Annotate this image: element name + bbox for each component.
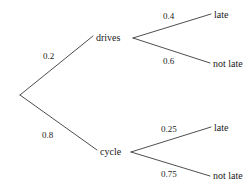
leaf-cycle-late: late (214, 123, 228, 133)
node-cycle: cycle (100, 147, 121, 157)
edge-root-to-drives (20, 36, 93, 95)
leaf-drives-late: late (214, 10, 228, 20)
probability-cycle-not-late: 0.75 (161, 170, 177, 179)
probability-cycle: 0.8 (42, 131, 53, 140)
leaf-cycle-not-late: not late (213, 171, 243, 181)
edge-root-to-cycle (20, 95, 97, 150)
tree-edges (0, 0, 250, 185)
node-drives: drives (96, 33, 120, 43)
probability-cycle-late: 0.25 (161, 125, 177, 134)
leaf-drives-not-late: not late (213, 59, 243, 69)
probability-drives-late: 0.4 (163, 12, 174, 21)
probability-tree-diagram: drives cycle late not late late not late… (0, 0, 250, 185)
probability-drives: 0.2 (43, 52, 54, 61)
probability-drives-not-late: 0.6 (163, 57, 174, 66)
